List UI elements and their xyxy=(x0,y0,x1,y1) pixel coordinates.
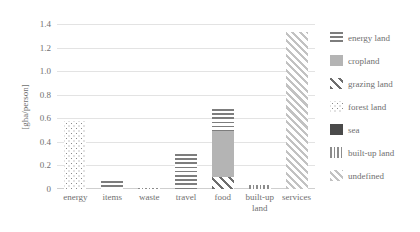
legend-swatch-icon xyxy=(330,124,343,135)
bar-segment[interactable] xyxy=(175,154,197,189)
legend: energy landcroplandgrazing landforest la… xyxy=(330,26,418,187)
x-axis-tick-label: waste xyxy=(131,192,168,214)
bar-slot xyxy=(168,24,205,189)
plot-area xyxy=(57,24,315,189)
legend-label: cropland xyxy=(348,56,380,66)
bar-slot xyxy=(94,24,131,189)
legend-item[interactable]: sea xyxy=(330,118,418,141)
legend-item[interactable]: energy land xyxy=(330,26,418,49)
bar-stack[interactable] xyxy=(138,188,160,189)
legend-label: forest land xyxy=(348,102,386,112)
bar-slot xyxy=(241,24,278,189)
legend-label: undefined xyxy=(348,171,384,181)
x-axis-tick-label: services xyxy=(278,192,315,214)
legend-item[interactable]: undefined xyxy=(330,164,418,187)
legend-item[interactable]: forest land xyxy=(330,95,418,118)
bar-series-group xyxy=(57,24,315,189)
y-axis-ticks: 00.20.40.60.81.01.21.4 xyxy=(0,24,51,189)
bar-segment[interactable] xyxy=(212,177,234,189)
y-axis-tick-label: 0.6 xyxy=(40,113,51,123)
y-axis-tick-label: 0.2 xyxy=(40,160,51,170)
bar-segment[interactable] xyxy=(138,188,160,189)
legend-label: built-up land xyxy=(348,148,394,158)
y-axis-tick-label: 1.4 xyxy=(40,19,51,29)
y-axis-tick-label: 1.2 xyxy=(40,43,51,53)
bar-segment[interactable] xyxy=(249,185,271,189)
bar-stack[interactable] xyxy=(64,121,86,189)
x-axis-tick-label: travel xyxy=(168,192,205,214)
legend-swatch-icon xyxy=(330,101,343,112)
legend-item[interactable]: grazing land xyxy=(330,72,418,95)
bar-stack[interactable] xyxy=(101,181,123,189)
y-axis-tick-label: 1.0 xyxy=(40,66,51,76)
y-axis-tick-label: 0.4 xyxy=(40,137,51,147)
bar-chart: [gha/person] 00.20.40.60.81.01.21.4 ener… xyxy=(0,0,420,232)
legend-swatch-icon xyxy=(330,147,343,158)
legend-label: energy land xyxy=(348,33,390,43)
bar-stack[interactable] xyxy=(286,32,308,189)
legend-swatch-icon xyxy=(330,78,343,89)
legend-swatch-icon xyxy=(330,170,343,181)
bar-slot xyxy=(204,24,241,189)
bar-segment[interactable] xyxy=(64,121,86,189)
legend-swatch-icon xyxy=(330,32,343,43)
bar-stack[interactable] xyxy=(249,185,271,189)
x-axis-tick-label: built-up land xyxy=(241,192,278,214)
bar-segment[interactable] xyxy=(212,109,234,131)
x-axis-tick-label: energy xyxy=(57,192,94,214)
legend-label: sea xyxy=(348,125,360,135)
x-axis-tick-label: items xyxy=(94,192,131,214)
bar-slot xyxy=(278,24,315,189)
bar-stack[interactable] xyxy=(212,109,234,189)
bar-slot xyxy=(131,24,168,189)
x-axis-labels: energyitemswastetravelfoodbuilt-up lands… xyxy=(57,192,315,214)
legend-label: grazing land xyxy=(348,79,393,89)
y-axis-tick-label: 0.8 xyxy=(40,90,51,100)
x-axis-tick-label: food xyxy=(204,192,241,214)
legend-item[interactable]: cropland xyxy=(330,49,418,72)
y-axis-tick-label: 0 xyxy=(47,184,52,194)
bar-stack[interactable] xyxy=(175,154,197,189)
bar-segment[interactable] xyxy=(212,131,234,177)
bar-slot xyxy=(57,24,94,189)
legend-item[interactable]: built-up land xyxy=(330,141,418,164)
bar-segment[interactable] xyxy=(101,181,123,189)
bar-segment[interactable] xyxy=(286,32,308,189)
legend-swatch-icon xyxy=(330,55,343,66)
